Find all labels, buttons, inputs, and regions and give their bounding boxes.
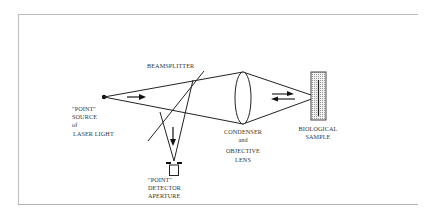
arrow-bidirectional-icon — [271, 91, 295, 102]
diagram-canvas — [0, 0, 448, 223]
biological-sample-icon — [311, 72, 326, 120]
source-label-line-2: SOURCE — [72, 113, 114, 121]
source-label-line-3: of — [72, 121, 114, 129]
arrow-right-icon — [127, 94, 146, 100]
confocal-diagram: BEAMSPLITTER "POINT" SOURCE of LASER LIG… — [0, 0, 448, 223]
detector-label-line-1: "POINT" — [148, 176, 181, 184]
arrow-down-icon — [170, 127, 176, 146]
beamsplitter-label-text: BEAMSPLITTER — [147, 62, 194, 70]
source-label-line-4: LASER LIGHT — [72, 130, 114, 138]
lens-label-line-3: OBJECTIVE — [218, 147, 268, 155]
detector-label: "POINT" DETECTOR APERTURE — [148, 176, 181, 201]
source-label: "POINT" SOURCE of LASER LIGHT — [72, 105, 114, 138]
lens-icon — [235, 72, 251, 124]
beamsplitter-icon — [148, 71, 204, 141]
detector-label-line-3: APERTURE — [148, 192, 181, 200]
lens-label-line-1: CONDENSER — [218, 128, 268, 136]
lens-label-line-2: and — [218, 136, 268, 144]
detector-aperture-icon — [166, 162, 182, 176]
sample-label-line-1: BIOLOGICAL — [291, 125, 345, 133]
detector-label-line-2: DETECTOR — [148, 184, 181, 192]
sample-label: BIOLOGICAL SAMPLE — [291, 125, 345, 141]
beamsplitter-label: BEAMSPLITTER — [147, 62, 194, 70]
lens-label: CONDENSER and OBJECTIVE LENS — [218, 128, 268, 164]
sample-label-line-2: SAMPLE — [291, 133, 345, 141]
source-label-line-1: "POINT" — [72, 105, 114, 113]
laser-beam-rays — [104, 72, 317, 124]
lens-label-line-4: LENS — [218, 156, 268, 164]
